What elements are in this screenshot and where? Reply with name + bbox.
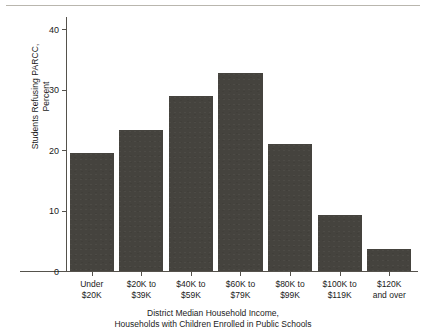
y-tick-label: 20 bbox=[49, 146, 59, 156]
y-axis-label: Students Refusing PARCC, Percent bbox=[30, 0, 51, 197]
y-tick-label: 30 bbox=[49, 85, 59, 95]
x-tick-mark bbox=[389, 271, 390, 276]
x-tick-mark bbox=[191, 271, 192, 276]
x-tick-mark bbox=[92, 271, 93, 276]
y-tick-20: 20 bbox=[49, 141, 67, 159]
bar bbox=[169, 96, 213, 271]
y-tick-label: 40 bbox=[49, 25, 59, 35]
y-tick-30: 30 bbox=[49, 81, 67, 99]
bar bbox=[218, 73, 262, 271]
bar bbox=[268, 144, 312, 271]
x-tick-mark bbox=[340, 271, 341, 276]
y-tick-40: 40 bbox=[49, 20, 67, 38]
y-tick-label: 0 bbox=[54, 267, 59, 277]
bar-series bbox=[67, 17, 414, 271]
bar bbox=[318, 215, 362, 271]
x-tick-mark bbox=[240, 271, 241, 276]
top-divider bbox=[6, 5, 420, 6]
x-tick-mark bbox=[141, 271, 142, 276]
bar-chart-figure: Students Refusing PARCC, Percent 0102030… bbox=[0, 0, 426, 336]
y-tick-10: 10 bbox=[49, 202, 67, 220]
x-axis-label: District Median Household Income, Househ… bbox=[0, 308, 426, 330]
y-tick-label: 10 bbox=[49, 206, 59, 216]
x-tick-label: $120K and over bbox=[358, 279, 420, 300]
bar bbox=[119, 130, 163, 271]
y-tick-0: 0 bbox=[54, 262, 67, 280]
bar bbox=[70, 153, 114, 271]
bar bbox=[367, 249, 411, 271]
x-tick-mark bbox=[290, 271, 291, 276]
